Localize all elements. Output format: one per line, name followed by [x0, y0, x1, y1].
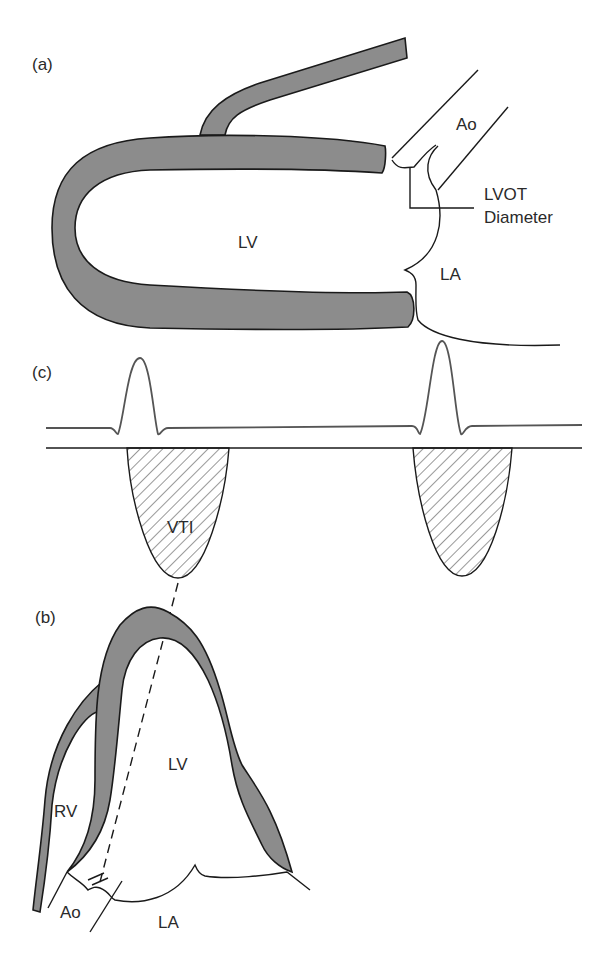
aortic-valve-leaflet — [392, 145, 436, 168]
rv-label: RV — [54, 802, 78, 821]
panel-c-label: (c) — [32, 363, 52, 382]
rv-free-wall — [200, 38, 407, 135]
ecg-trace — [46, 341, 582, 434]
panel-b-label: (b) — [35, 608, 56, 627]
doppler-envelope — [413, 448, 512, 576]
panel-b: (b) LV RV Ao LA — [33, 607, 310, 932]
panel-c: (c) VTI — [32, 341, 582, 578]
rv-free-wall — [33, 682, 102, 912]
lv-wall — [52, 135, 414, 329]
doppler-envelope-vti — [127, 448, 229, 578]
aortic-wall-posterior — [90, 881, 122, 932]
lvot-diameter-marker — [410, 168, 474, 208]
la-label: LA — [440, 265, 461, 284]
lv-label: LV — [238, 233, 258, 252]
panel-a-label: (a) — [32, 55, 53, 74]
lvot-label: LVOT — [484, 185, 527, 204]
la-label: LA — [158, 913, 179, 932]
ao-label: Ao — [456, 115, 477, 134]
sample-volume-marker — [92, 878, 108, 885]
diameter-label: Diameter — [484, 208, 553, 227]
lv-wall — [67, 607, 292, 872]
mitral-valve-line — [67, 865, 310, 902]
aortic-wall-anterior — [392, 70, 478, 158]
ao-label: Ao — [60, 903, 81, 922]
aortic-valve-leaflet — [428, 146, 438, 190]
lv-label: LV — [168, 755, 188, 774]
panel-a: (a) LV Ao LA LVOT Diameter — [32, 38, 560, 345]
echo-diagram: (a) LV Ao LA LVOT Diameter (c) VTI — [0, 0, 603, 954]
vti-label: VTI — [167, 518, 193, 537]
